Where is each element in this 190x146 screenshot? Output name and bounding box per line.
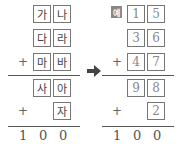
example-cell: 1 [127, 5, 145, 23]
example-cell: 9 [127, 79, 145, 97]
example-cell: 3 [127, 29, 145, 47]
result-line [8, 126, 80, 127]
plus-sign: + [112, 55, 122, 69]
cell-ma: 마 [33, 53, 51, 71]
cell-da: 다 [33, 29, 51, 47]
plus-sign: + [18, 104, 28, 118]
plus-sign: + [18, 55, 28, 69]
result-digit: 1 [19, 128, 27, 143]
result-digit: 1 [113, 128, 121, 143]
example-cell: 8 [147, 79, 165, 97]
cell-na: 나 [53, 5, 71, 23]
example-panel: 1 5 3 6 + 4 7 9 8 + 2 1 0 0 [98, 0, 190, 146]
example-cell: 2 [147, 102, 165, 120]
puzzle-panel: 가 나 다 라 + 마 바 사 아 + 자 1 0 0 [0, 0, 92, 146]
result-digit: 0 [59, 128, 67, 143]
cell-ba: 바 [53, 53, 71, 71]
cell-sa: 사 [33, 79, 51, 97]
plus-sign: + [112, 104, 122, 118]
example-cell: 7 [147, 53, 165, 71]
cell-ra: 라 [53, 29, 71, 47]
sum-line [8, 75, 80, 76]
sum-line [102, 75, 174, 76]
result-line [102, 126, 174, 127]
result-digit: 0 [39, 128, 47, 143]
result-digit: 0 [133, 128, 141, 143]
example-cell: 5 [147, 5, 165, 23]
example-cell: 4 [127, 53, 145, 71]
result-digit: 0 [153, 128, 161, 143]
cell-ja: 자 [53, 102, 71, 120]
cell-ga: 가 [33, 5, 51, 23]
example-cell: 6 [147, 29, 165, 47]
cell-a: 아 [53, 79, 71, 97]
